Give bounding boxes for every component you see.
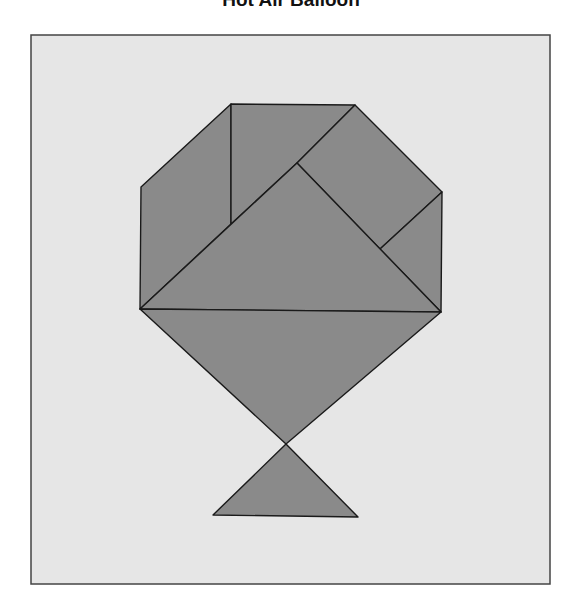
- tangram-canvas: [0, 0, 582, 611]
